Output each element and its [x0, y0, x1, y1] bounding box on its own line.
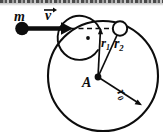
- perpendicular-dot: [86, 36, 90, 40]
- label-mass: m: [14, 10, 25, 24]
- particle-circle: [113, 21, 127, 35]
- label-radius-particle-subscript: 2: [119, 43, 123, 53]
- label-radius-inner-subscript: 1: [106, 43, 110, 52]
- label-radius-particle: r2: [114, 37, 124, 52]
- label-velocity: v: [45, 9, 51, 23]
- center-point-dot: [95, 74, 102, 81]
- physics-figure: m v r1 r2 A r0: [0, 0, 163, 138]
- label-center-point: A: [82, 76, 91, 90]
- velocity-arrowhead: [61, 22, 73, 35]
- label-radius-inner: r1: [101, 36, 110, 52]
